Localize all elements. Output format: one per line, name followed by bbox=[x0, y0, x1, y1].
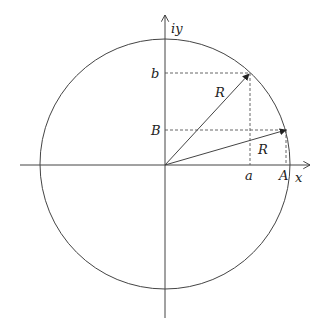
complex-plane-diagram: iy b R B R a A x bbox=[0, 0, 328, 325]
label-iy: iy bbox=[171, 21, 183, 36]
vector-upper bbox=[165, 74, 249, 165]
label-B: B bbox=[150, 123, 161, 138]
label-R-upper: R bbox=[214, 85, 225, 100]
label-a: a bbox=[245, 168, 253, 183]
label-x: x bbox=[295, 170, 303, 185]
label-R-lower: R bbox=[257, 142, 268, 157]
vector-lower bbox=[165, 130, 286, 165]
label-A: A bbox=[278, 168, 288, 183]
label-b: b bbox=[151, 66, 159, 81]
